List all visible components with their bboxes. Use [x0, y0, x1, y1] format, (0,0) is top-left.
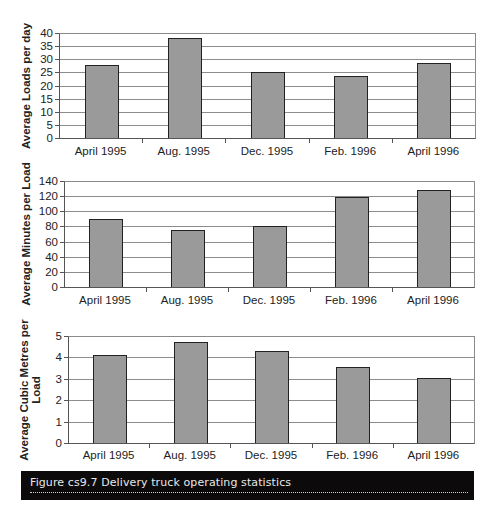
x-tick-label: Aug. 1995	[142, 294, 232, 306]
x-tick-label: April 1996	[388, 449, 478, 461]
x-tick-mark	[392, 139, 393, 143]
y-tick-label: 60	[28, 236, 58, 248]
x-tick-label: April 1996	[388, 294, 478, 306]
bar	[93, 355, 127, 443]
bar	[168, 38, 202, 138]
x-tick-mark	[149, 444, 150, 448]
y-tick-mark	[64, 357, 68, 358]
plot-area	[68, 336, 475, 444]
plot-area	[64, 181, 475, 288]
bar	[417, 63, 451, 138]
y-tick-mark	[64, 400, 68, 401]
y-axis-label-line: Average Cubic Metres per	[18, 310, 30, 470]
y-tick-mark	[60, 287, 64, 288]
figure-caption-bar: Figure cs9.7 Delivery truck operating st…	[21, 471, 474, 500]
bar	[89, 219, 123, 287]
y-tick-mark	[60, 242, 64, 243]
x-tick-label: Feb. 1996	[307, 449, 397, 461]
y-tick-label: 80	[28, 220, 58, 232]
y-tick-mark	[55, 46, 59, 47]
gridline	[60, 59, 475, 60]
x-tick-label: April 1995	[64, 449, 154, 461]
x-tick-mark	[310, 288, 311, 292]
y-tick-mark	[60, 211, 64, 212]
y-tick-mark	[60, 181, 64, 182]
y-tick-mark	[55, 125, 59, 126]
bar	[417, 378, 451, 443]
y-tick-mark	[64, 443, 68, 444]
y-tick-mark	[55, 59, 59, 60]
y-tick-mark	[64, 336, 68, 337]
y-tick-mark	[64, 379, 68, 380]
bar	[85, 65, 119, 139]
y-tick-label: 120	[28, 190, 58, 202]
x-tick-label: April 1995	[56, 145, 146, 157]
y-tick-label: 40	[28, 251, 58, 263]
x-tick-mark	[225, 139, 226, 143]
x-tick-label: Aug. 1995	[145, 449, 235, 461]
y-tick-label: 140	[28, 175, 58, 187]
gridline	[65, 211, 474, 212]
x-tick-label: Feb. 1996	[306, 294, 396, 306]
y-axis-label: Average Minutes per Load	[20, 154, 32, 314]
bar	[174, 342, 208, 443]
x-tick-mark	[228, 288, 229, 292]
bar	[335, 197, 369, 287]
x-tick-label: April 1995	[60, 294, 150, 306]
gridline	[60, 46, 475, 47]
x-tick-label: Dec. 1995	[222, 145, 312, 157]
y-tick-mark	[55, 112, 59, 113]
y-tick-mark	[55, 33, 59, 34]
bar	[171, 230, 205, 287]
gridline	[65, 196, 474, 197]
x-tick-mark	[392, 288, 393, 292]
bar	[253, 226, 287, 287]
bar	[417, 190, 451, 287]
x-tick-mark	[393, 444, 394, 448]
y-tick-mark	[60, 257, 64, 258]
x-tick-label: Dec. 1995	[224, 294, 314, 306]
x-tick-mark	[146, 288, 147, 292]
bar	[336, 367, 370, 443]
y-tick-mark	[60, 226, 64, 227]
x-tick-mark	[309, 139, 310, 143]
x-tick-label: Aug. 1995	[139, 145, 229, 157]
y-axis-label-line: Load	[30, 310, 42, 470]
y-tick-mark	[55, 138, 59, 139]
bar	[255, 351, 289, 443]
bar	[251, 72, 285, 138]
y-tick-mark	[60, 196, 64, 197]
y-tick-mark	[55, 72, 59, 73]
caption-dotted-rule	[30, 492, 468, 493]
y-axis-label: Average Loads per day	[20, 6, 32, 166]
y-tick-mark	[55, 86, 59, 87]
x-tick-mark	[312, 444, 313, 448]
x-tick-mark	[230, 444, 231, 448]
y-tick-label: 100	[28, 205, 58, 217]
y-tick-label: 0	[28, 281, 58, 293]
y-tick-mark	[64, 422, 68, 423]
figure-caption: Figure cs9.7 Delivery truck operating st…	[30, 476, 291, 489]
y-tick-label: 20	[28, 266, 58, 278]
x-tick-label: Dec. 1995	[226, 449, 316, 461]
x-tick-mark	[142, 139, 143, 143]
y-axis-label: Average Cubic Metres perLoad	[18, 310, 42, 470]
x-tick-label: April 1996	[388, 145, 478, 157]
plot-area	[59, 33, 476, 139]
x-tick-label: Feb. 1996	[305, 145, 395, 157]
y-tick-mark	[60, 272, 64, 273]
y-tick-mark	[55, 99, 59, 100]
bar	[334, 76, 368, 138]
